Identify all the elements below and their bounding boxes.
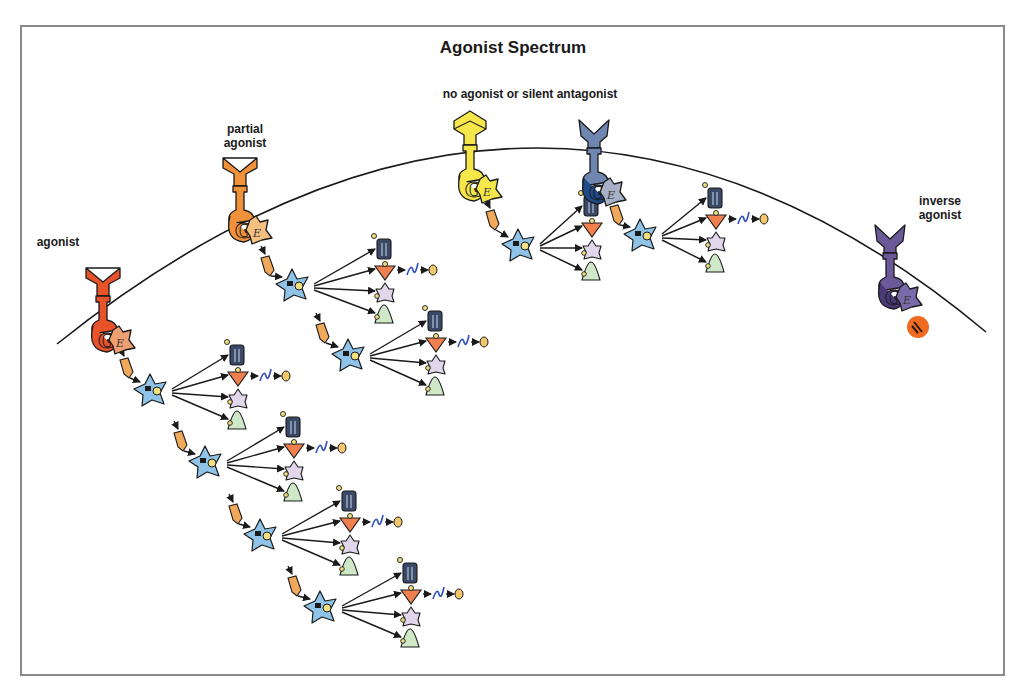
receptor-partial-agonist: GE [223,158,272,244]
bullet-icon [316,323,329,343]
bullet-icon [288,576,301,596]
bullet-icon [486,210,499,230]
ligand-icon [579,120,609,148]
green-cone-icon [340,557,358,575]
product-oval-icon [480,337,488,347]
squiggle-icon [433,587,444,599]
agonist-spectrum-diagram: GEGEGEGEGE [0,0,1026,691]
receptor-inverse-agonist: GE [875,225,922,311]
cascade-7 [486,191,602,281]
down-triangle-icon [228,372,248,386]
bullet-icon [610,205,623,225]
ligand-icon [223,158,257,186]
product-oval-icon [282,371,290,381]
product-oval-icon [338,443,346,453]
down-triangle-icon [426,338,446,352]
svg-text:E: E [606,189,615,202]
lilac-star-icon [427,355,445,374]
product-oval-icon [455,589,463,599]
product-oval-icon [394,517,402,527]
green-cone-icon [401,629,419,647]
ligand-icon [875,225,905,253]
ligand-icon [454,111,486,145]
down-triangle-icon [375,266,395,280]
bullet-icon [174,431,187,451]
lilac-star-icon [285,461,303,480]
squiggle-icon [372,515,383,527]
down-triangle-icon [582,223,602,237]
lilac-star-icon [402,607,420,626]
signaling-cascades [120,183,768,648]
receptor-silent-antagonist: GE [579,120,626,206]
squiggle-icon [738,212,749,224]
ion-channel-icon [230,345,244,365]
bullet-icon [120,358,133,378]
receptors: GEGEGEGEGE [86,111,922,354]
down-triangle-icon [401,590,421,604]
green-cone-icon [375,305,393,323]
svg-text:E: E [115,337,124,350]
squiggle-icon [260,369,271,381]
cascade-5 [261,234,437,324]
svg-text:E: E [252,227,261,240]
cascade-8 [610,183,768,273]
receptor-no-agonist: GE [454,111,502,203]
ion-channel-icon [377,239,391,259]
receptor-agonist: GE [86,268,135,354]
product-oval-icon [760,214,768,224]
lilac-star-icon [707,232,725,251]
inverse-agonist-marker [907,316,929,338]
squiggle-icon [316,441,327,453]
product-oval-icon [429,265,437,275]
cascade-6 [316,306,488,396]
lilac-star-icon [229,389,247,408]
lilac-star-icon [376,283,394,302]
lilac-star-icon [341,535,359,554]
svg-text:E: E [482,186,491,199]
ion-channel-icon [286,417,300,437]
cascade-4 [288,558,463,648]
cascade-1 [120,340,290,430]
cascade-3 [229,486,402,576]
down-triangle-icon [706,215,726,229]
svg-text:E: E [902,294,911,307]
cascade-2 [174,412,346,502]
green-cone-icon [426,377,444,395]
green-cone-icon [706,254,724,272]
ion-channel-icon [403,563,417,583]
squiggle-icon [407,263,418,275]
ion-channel-icon [428,311,442,331]
bullet-icon [261,256,274,276]
ligand-icon [86,268,120,296]
ion-channel-icon [708,188,722,208]
green-cone-icon [284,483,302,501]
ion-channel-icon [342,491,356,511]
bullet-icon [229,504,242,524]
squiggle-icon [458,335,469,347]
down-triangle-icon [284,444,304,458]
down-triangle-icon [340,518,360,532]
lilac-star-icon [583,240,601,259]
green-cone-icon [582,262,600,280]
green-cone-icon [228,411,246,429]
